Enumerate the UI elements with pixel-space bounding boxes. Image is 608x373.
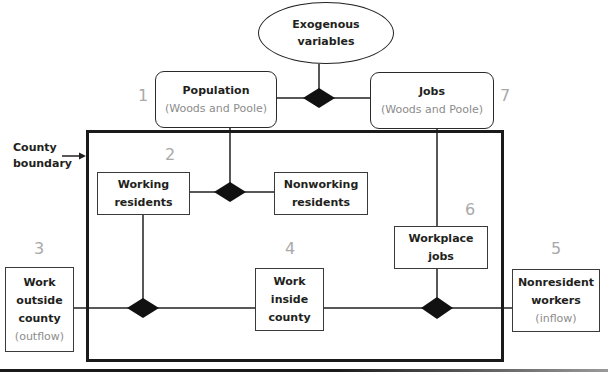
node-number-7: 7 <box>500 86 510 105</box>
work-inside-county-node: Work inside county <box>255 268 324 331</box>
work-outside-county-node: Work outside county (outflow) <box>5 267 74 352</box>
arrow-head-icon <box>79 153 86 160</box>
node-number-6: 6 <box>465 200 475 219</box>
node-number-1: 1 <box>138 86 148 105</box>
node-number-4: 4 <box>285 239 295 258</box>
jobs-node: Jobs (Woods and Poole) <box>370 72 494 129</box>
nonworking-residents-node: Nonworking residents <box>274 172 368 215</box>
nonresident-workers-node: Nonresident workers (inflow) <box>512 269 600 332</box>
exogenous-variables-node: Exogenous variables <box>258 2 394 64</box>
node-number-5: 5 <box>551 239 561 258</box>
county-boundary-label: County boundary <box>13 140 72 172</box>
working-residents-node: Working residents <box>97 172 190 215</box>
node-number-2: 2 <box>165 145 175 164</box>
population-node: Population (Woods and Poole) <box>155 71 277 128</box>
workplace-jobs-node: Workplace jobs <box>394 226 488 269</box>
node-number-3: 3 <box>34 239 44 258</box>
bottom-rule <box>0 369 608 372</box>
diamond-top <box>303 88 335 108</box>
